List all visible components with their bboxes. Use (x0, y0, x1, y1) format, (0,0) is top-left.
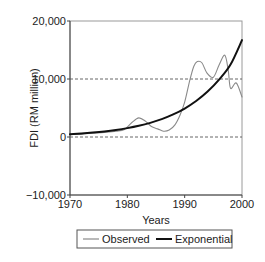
legend-observed-label: Observed (102, 233, 150, 245)
series-exponential-line (70, 40, 242, 134)
y-axis-title: FDI (RM million) (28, 68, 40, 147)
legend-exponential-label: Exponential (175, 233, 233, 245)
x-tick-label: 2000 (230, 198, 254, 210)
x-tick-label: 1990 (172, 198, 196, 210)
series-observed-line (70, 55, 242, 135)
plot-area (70, 21, 242, 195)
y-tick-label: 20,000 (32, 15, 66, 27)
x-tick-label: 1980 (115, 198, 139, 210)
x-axis-ticks: 1970198019902000 (58, 195, 254, 210)
y-tick-label: 0 (60, 131, 66, 143)
legend: Observed Exponential (77, 230, 233, 248)
fdi-line-chart: −10,000010,00020,000 1970198019902000 FD… (0, 0, 265, 262)
x-tick-label: 1970 (58, 198, 82, 210)
series-layer (70, 40, 242, 135)
x-axis-title: Years (142, 214, 170, 226)
